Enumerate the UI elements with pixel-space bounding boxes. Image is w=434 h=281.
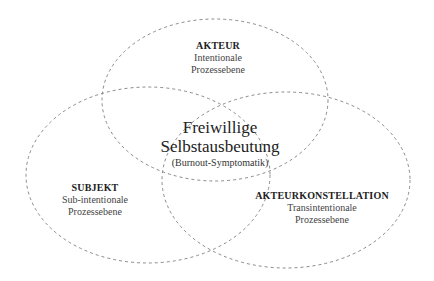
label-akteur: AKTEUR Intentionale Prozessebene (191, 40, 245, 75)
subjekt-title: SUBJEKT (62, 182, 128, 194)
center-line3: (Burnout-Symptomatik) (161, 157, 280, 168)
subjekt-line2: Prozessebene (62, 206, 128, 218)
label-akteurkonstellation: AKTEURKONSTELLATION Transintentionale Pr… (255, 190, 389, 225)
akteur-line1: Intentionale (191, 52, 245, 64)
akteur-title: AKTEUR (191, 40, 245, 52)
akteurkonstellation-line1: Transintentionale (255, 202, 389, 214)
ellipse-subjekt (26, 87, 270, 263)
center-label: Freiwillige Selbstausbeutung (Burnout-Sy… (161, 118, 280, 168)
center-line1: Freiwillige (161, 118, 280, 137)
center-line2: Selbstausbeutung (161, 137, 280, 156)
akteurkonstellation-line2: Prozessebene (255, 214, 389, 226)
akteurkonstellation-title: AKTEURKONSTELLATION (255, 190, 389, 202)
akteur-line2: Prozessebene (191, 64, 245, 76)
label-subjekt: SUBJEKT Sub-intentionale Prozessebene (62, 182, 128, 217)
subjekt-line1: Sub-intentionale (62, 194, 128, 206)
